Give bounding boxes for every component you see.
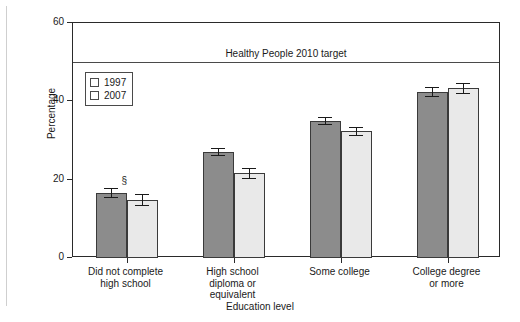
- x-axis-category-line: Did not complete: [66, 266, 186, 278]
- page-edge-rule: [6, 6, 7, 306]
- y-axis-tick-label: 0: [38, 251, 64, 262]
- y-axis-tick-label: 60: [38, 16, 64, 27]
- x-axis-category-line: high school: [66, 278, 186, 290]
- error-bar: [211, 148, 225, 156]
- x-axis-category-label: Some college: [280, 266, 400, 278]
- x-axis-category-line: or more: [387, 278, 507, 290]
- error-bar: [456, 83, 470, 95]
- y-axis-tick-mark: [67, 257, 72, 258]
- plot-area: Healthy People 2010 target 1997 2007 §: [72, 22, 500, 257]
- x-axis-tick-mark: [127, 258, 128, 263]
- legend-item: 1997: [90, 76, 126, 89]
- x-axis-category-line: equivalent: [173, 289, 293, 301]
- x-axis-category-label: College degreeor more: [387, 266, 507, 289]
- legend-item: 2007: [90, 89, 126, 102]
- error-bar: [242, 168, 256, 179]
- x-axis-category-line: College degree: [387, 266, 507, 278]
- bar: [203, 152, 234, 258]
- bar: [341, 131, 372, 258]
- x-axis-tick-mark: [341, 258, 342, 263]
- error-bar: [104, 188, 118, 197]
- bar: [417, 92, 448, 258]
- y-axis-title: Percentage: [46, 54, 57, 174]
- x-axis-category-label: Did not completehigh school: [66, 266, 186, 289]
- x-axis-tick-mark: [448, 258, 449, 263]
- legend: 1997 2007: [85, 72, 133, 106]
- error-bar: [135, 194, 149, 206]
- x-axis-category-line: diploma or: [173, 278, 293, 290]
- error-bar: [425, 87, 439, 97]
- x-axis-category-label: High schooldiploma orequivalent: [173, 266, 293, 301]
- legend-swatch-2007: [90, 91, 99, 100]
- bar: [96, 193, 127, 258]
- x-axis-category-line: High school: [173, 266, 293, 278]
- bar: [127, 200, 158, 258]
- bar: [448, 88, 479, 258]
- x-axis-title: Education level: [0, 301, 520, 312]
- legend-swatch-1997: [90, 78, 99, 87]
- legend-label-2007: 2007: [104, 90, 126, 101]
- chart-figure: Percentage 0204060 Healthy People 2010 t…: [0, 0, 520, 322]
- x-axis-tick-mark: [234, 258, 235, 263]
- y-axis-tick-label: 40: [38, 94, 64, 105]
- error-bar: [349, 127, 363, 136]
- reference-line: [73, 62, 499, 63]
- reference-line-label: Healthy People 2010 target: [73, 48, 499, 59]
- significance-marker: §: [122, 176, 128, 186]
- x-axis-category-line: Some college: [280, 266, 400, 278]
- error-bar: [318, 117, 332, 125]
- y-axis-tick-label: 20: [38, 173, 64, 184]
- legend-label-1997: 1997: [104, 77, 126, 88]
- bar: [310, 121, 341, 258]
- bar: [234, 173, 265, 258]
